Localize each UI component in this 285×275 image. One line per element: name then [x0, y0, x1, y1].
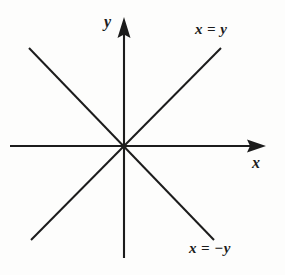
label-line-x-equals-y: x = y — [195, 22, 227, 37]
origin-point — [121, 143, 126, 148]
label-axis-y: y — [104, 14, 112, 30]
label-axis-x: x — [252, 155, 260, 171]
diagram-canvas — [0, 0, 285, 275]
line-x-equals-y — [31, 48, 221, 240]
label-line-x-equals-negative-y: x = −y — [189, 241, 231, 256]
figure-coordinate-plane: x = y x = −y y x — [0, 0, 285, 275]
line-x-equals-negative-y — [29, 48, 214, 240]
